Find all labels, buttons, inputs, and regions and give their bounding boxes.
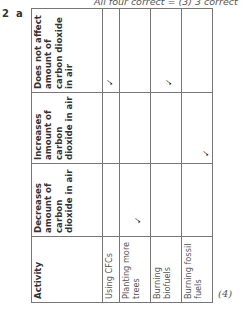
increases-cell (120, 93, 151, 164)
activity-cell: Burning fossil fuels (182, 237, 213, 303)
decreases-cell (103, 164, 120, 237)
header-increases: Increases amount of carbon dioxide in ai… (32, 93, 103, 164)
check-icon: ✓ (134, 216, 143, 224)
no-effect-cell (182, 9, 213, 93)
question-part: a (16, 8, 23, 19)
answer-table: Activity Decreases amount of carbon diox… (31, 8, 213, 303)
check-icon: ✓ (106, 78, 115, 86)
table-row: Using CFCs ✓ (103, 9, 120, 303)
decreases-cell (151, 164, 182, 237)
increases-cell (103, 93, 120, 164)
table-row: Planting more trees ✓ (120, 9, 151, 303)
question-number: 2 (2, 8, 9, 19)
header-decreases: Decreases amount of carbon dioxide in ai… (32, 164, 103, 237)
header-row: Activity Decreases amount of carbon diox… (32, 9, 103, 303)
increases-cell (151, 93, 182, 164)
table-row: Burning fossil fuels ✓ (182, 9, 213, 303)
header-activity: Activity (32, 237, 103, 303)
increases-cell: ✓ (182, 93, 213, 164)
no-effect-cell (120, 9, 151, 93)
check-icon: ✓ (202, 149, 211, 157)
marks-label: (4) (218, 288, 232, 299)
activity-cell: Burning biofuels (151, 237, 182, 303)
activity-cell: Planting more trees (120, 237, 151, 303)
no-effect-cell: ✓ (151, 9, 182, 93)
marking-note: All four correct = (3) 3 correct = ( (94, 0, 241, 7)
table-row: Burning biofuels ✓ (151, 9, 182, 303)
decreases-cell (182, 164, 213, 237)
check-icon: ✓ (165, 78, 174, 86)
no-effect-cell: ✓ (103, 9, 120, 93)
decreases-cell: ✓ (120, 164, 151, 237)
activity-cell: Using CFCs (103, 237, 120, 303)
answer-table-rotated: Activity Decreases amount of carbon diox… (31, 9, 212, 303)
header-no-effect: Does not affect amount of carbon dioxide… (32, 9, 103, 93)
